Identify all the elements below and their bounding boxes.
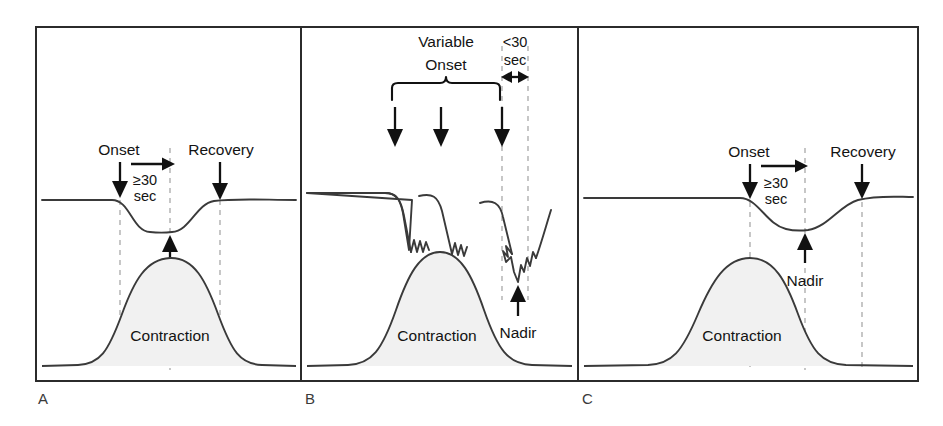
onset-arrow-head-2-b: [433, 129, 449, 147]
contraction-label-c: Contraction: [702, 327, 781, 344]
deceleration-patterns-figure: Nadir Onset ≥30 sec Recovery: [0, 0, 943, 426]
panel-a: Nadir Onset ≥30 sec Recovery: [38, 141, 296, 407]
recovery-label-a: Recovery: [188, 141, 254, 158]
lt30-label-line1-b: <30: [503, 34, 528, 50]
onset-arrow-head-3-b: [494, 129, 510, 147]
recovery-annotation-a: Recovery: [188, 141, 254, 200]
panel-letter-a: A: [38, 390, 48, 407]
nadir-arrow-head-b: [510, 285, 526, 302]
panel-letter-b: B: [305, 390, 315, 407]
lt30-arrow-head-left-b: [501, 71, 512, 83]
nadir-arrow-head-c: [797, 233, 813, 250]
fhr-trace-2-zigzag-b: [452, 243, 467, 256]
duration-arrow-head-c: [795, 160, 808, 173]
contraction-label-b: Contraction: [397, 327, 476, 344]
contraction-curve-a: [42, 258, 296, 366]
duration-arrow-head-a: [162, 158, 175, 171]
recovery-label-c: Recovery: [830, 143, 896, 160]
contraction-curve-b: [307, 252, 572, 366]
nadir-label-b: Nadir: [499, 324, 536, 341]
onset-arrows-b: [387, 107, 510, 147]
onset-label-a: Onset: [98, 141, 140, 158]
variable-onset-label-line2-b: Onset: [425, 56, 467, 73]
duration-label-line1-c: ≥30: [764, 175, 788, 191]
lt30-annotation-b: <30 sec: [501, 34, 529, 83]
fhr-trace-1-body-b: [307, 193, 411, 252]
fhr-trace-1-zigzag-b: [411, 240, 429, 252]
onset-arrow-head-1-b: [387, 129, 403, 147]
figure-root: Nadir Onset ≥30 sec Recovery: [0, 0, 943, 426]
panel-c: Nadir Onset ≥30 sec Recovery: [582, 143, 913, 407]
nadir-annotation-b: Nadir: [499, 285, 536, 341]
duration-annotation-c: ≥30 sec: [761, 160, 808, 208]
fhr-trace-1-b: [307, 193, 412, 250]
fhr-trace-2-b: [419, 195, 452, 254]
fhr-trace-c: [584, 197, 913, 231]
contraction-curve-c: [584, 258, 913, 366]
duration-label-line2-a: sec: [134, 188, 157, 204]
fhr-trace-a: [42, 199, 296, 232]
nadir-label-c: Nadir: [786, 272, 823, 289]
duration-label-line2-c: sec: [765, 191, 788, 207]
recovery-annotation-c: Recovery: [830, 143, 896, 199]
duration-annotation-a: ≥30 sec: [131, 158, 175, 205]
onset-label-c: Onset: [728, 143, 770, 160]
variable-onset-annotation-b: Variable Onset: [392, 33, 500, 100]
recovery-arrow-head-a: [212, 183, 228, 200]
contraction-label-a: Contraction: [130, 327, 209, 344]
panel-letter-c: C: [582, 390, 593, 407]
onset-arrow-head-c: [742, 182, 758, 199]
nadir-annotation-c: Nadir: [786, 233, 823, 289]
lt30-arrow-head-right-b: [518, 71, 529, 83]
fhr-trace-3-nadir-zigzag-b: [503, 246, 536, 282]
variable-onset-label-line1-b: Variable: [418, 33, 474, 50]
panel-b: Variable Onset <30 sec: [305, 33, 572, 407]
recovery-arrow-head-c: [854, 182, 870, 199]
fhr-trace-3-recovery-b: [536, 210, 551, 258]
duration-label-line1-a: ≥30: [133, 172, 157, 188]
variable-onset-brace-b: [392, 77, 500, 100]
nadir-arrow-head-a: [162, 235, 178, 252]
lt30-label-line2-b: sec: [504, 52, 527, 68]
onset-arrow-head-a: [112, 181, 128, 198]
